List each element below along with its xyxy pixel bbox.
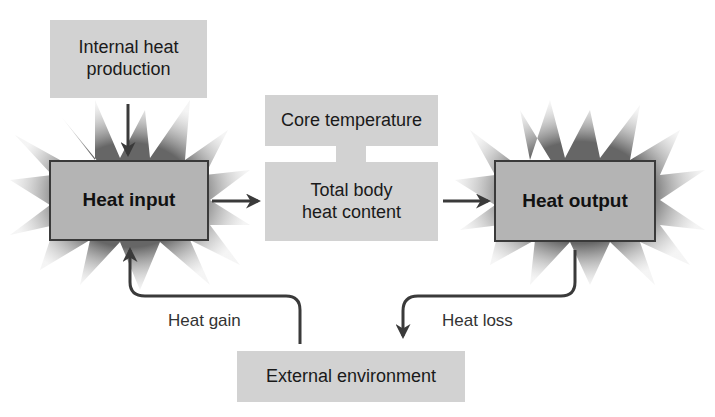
external-environment-box: External environment <box>237 351 465 402</box>
total-body-line1: Total body <box>310 180 392 202</box>
heat-output-label: Heat output <box>522 190 628 213</box>
internal-heat-line1: Internal heat <box>78 37 178 59</box>
heat-gain-label: Heat gain <box>168 311 241 331</box>
internal-heat-production-box: Internal heat production <box>50 20 207 98</box>
total-body-heat-box: Total body heat content <box>265 162 438 241</box>
external-environment-label: External environment <box>266 366 436 388</box>
heat-output-box: Heat output <box>494 160 656 242</box>
core-temperature-label: Core temperature <box>281 110 422 132</box>
core-temperature-box: Core temperature <box>265 95 438 146</box>
core-connector <box>336 146 366 163</box>
heat-input-box: Heat input <box>49 160 209 241</box>
heat-input-label: Heat input <box>83 189 176 212</box>
total-body-line2: heat content <box>302 202 401 224</box>
heat-loss-label: Heat loss <box>442 311 513 331</box>
internal-heat-line2: production <box>86 59 170 81</box>
